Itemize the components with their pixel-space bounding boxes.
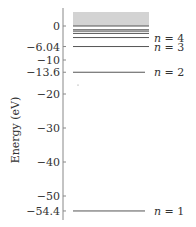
y-tick-label: 0 bbox=[53, 20, 60, 33]
energy-level-diagram: Energy (eV) 0−6.04−10−13.6−20−30−40−50−5… bbox=[0, 0, 196, 227]
y-tick-label: −6.04 bbox=[26, 41, 60, 54]
artifact-dot bbox=[77, 84, 78, 85]
y-tick-label: −50 bbox=[37, 190, 60, 203]
y-tick-label: −13.6 bbox=[26, 66, 60, 79]
y-tick-label: −54.4 bbox=[26, 205, 60, 218]
y-tick-label: −20 bbox=[37, 88, 60, 101]
y-tick-label: −30 bbox=[37, 122, 60, 135]
y-axis-ticks: 0−6.04−10−13.6−20−30−40−50−54.4 bbox=[26, 20, 66, 218]
level-label-n4: n = 4 bbox=[154, 32, 184, 45]
y-axis-title: Energy (eV) bbox=[9, 97, 22, 164]
y-tick-label: −40 bbox=[37, 156, 60, 169]
level-label-n2: n = 2 bbox=[154, 66, 184, 79]
continuum-shading bbox=[73, 12, 149, 26]
level-label-n1: n = 1 bbox=[154, 205, 184, 218]
energy-levels: n = 1n = 2n = 3n = 4 bbox=[73, 26, 184, 218]
y-tick-label: −10 bbox=[37, 54, 60, 67]
